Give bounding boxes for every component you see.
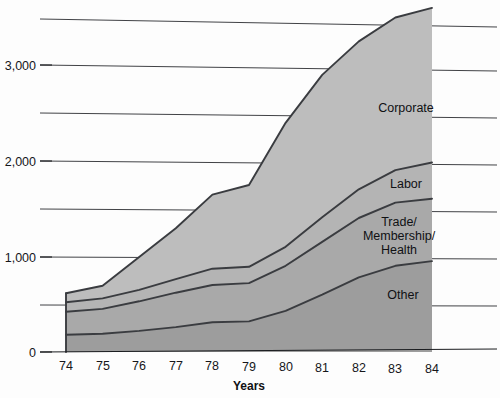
ytick-label-1000: 1,000: [5, 251, 36, 265]
xtick-label-80: 80: [279, 360, 293, 374]
x-axis-title: Years: [233, 379, 265, 393]
series-label-labor: Labor: [390, 177, 422, 191]
series-label-trade-line3: Health: [381, 243, 417, 257]
series-label-corporate: Corporate: [378, 101, 434, 115]
xtick-label-74: 74: [59, 359, 73, 373]
xtick-label-81: 81: [315, 361, 329, 375]
xtick-label-78: 78: [205, 359, 219, 373]
chart-canvas: 3,000 2,000 1,000 0 74 75 76 77 78 79 80…: [0, 0, 500, 398]
xtick-label-79: 79: [242, 360, 256, 374]
stacked-area-chart: 3,000 2,000 1,000 0 74 75 76 77 78 79 80…: [0, 0, 500, 398]
x-tick-labels: 74 75 76 77 78 79 80 81 82 83 84: [59, 359, 439, 376]
ytick-label-0: 0: [29, 346, 36, 360]
xtick-label-77: 77: [169, 359, 183, 373]
xtick-label-82: 82: [352, 361, 366, 375]
xtick-label-83: 83: [388, 362, 402, 376]
series-label-trade-line2: Membership/: [363, 229, 436, 243]
xtick-label-76: 76: [132, 359, 146, 373]
ytick-label-2000: 2,000: [5, 155, 36, 169]
xtick-label-84: 84: [425, 362, 439, 376]
xtick-label-75: 75: [96, 359, 110, 373]
ytick-label-3000: 3,000: [5, 59, 36, 73]
series-label-other: Other: [387, 288, 418, 302]
y-tick-labels: 3,000 2,000 1,000 0: [5, 59, 36, 360]
series-label-trade-line1: Trade/: [381, 215, 417, 229]
